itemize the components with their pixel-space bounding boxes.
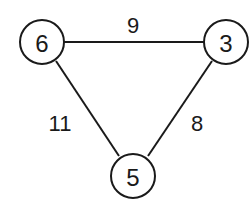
node-5: 5 [111,154,155,198]
node-label: 6 [35,30,48,57]
edge-weight-6-5: 11 [49,111,72,136]
edge-6-5 [56,61,119,156]
graph-diagram: 9 11 8 6 3 5 [0,0,250,204]
node-3: 3 [204,20,248,64]
edge-weight-6-3: 9 [127,13,139,38]
node-label: 3 [219,30,232,57]
node-6: 6 [20,20,64,64]
edge-weight-3-5: 8 [191,111,203,136]
edge-3-5 [148,61,212,156]
node-label: 5 [126,164,139,191]
